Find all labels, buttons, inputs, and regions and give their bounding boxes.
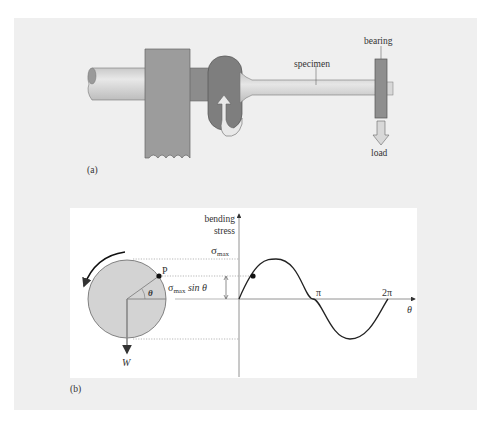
y-axis-label-bending: bending: [204, 214, 235, 224]
rotating-bending-diagram: specimen bearing load (a): [0, 0, 492, 422]
stress-dimension-arrow: [224, 276, 228, 299]
panel-a: specimen bearing load (a): [87, 36, 393, 176]
load-arrow-icon: [373, 121, 389, 145]
bearing: [375, 59, 387, 118]
panel-a-label: (a): [87, 165, 98, 176]
curve-point-p: [250, 273, 255, 278]
weight-label: W: [122, 357, 132, 368]
panel-b: bending stress σmax σmax sin θ P θ W π 2…: [70, 214, 415, 395]
y-axis-label-stress: stress: [214, 226, 235, 236]
sigma-max-label: σmax: [211, 244, 229, 258]
x-axis-label: θ: [407, 304, 412, 315]
drive-shaft: [88, 68, 150, 100]
angle-theta-label: θ: [148, 288, 153, 298]
point-p-label: P: [162, 265, 168, 276]
clamp-block: [145, 49, 190, 158]
specimen-label: specimen: [294, 59, 330, 69]
sigma-sin-theta-label: σmax sin θ: [168, 282, 207, 295]
tick-2pi-label: 2π: [382, 287, 392, 298]
load-label: load: [371, 148, 388, 158]
panel-b-label: (b): [70, 384, 81, 395]
point-p: [156, 273, 161, 278]
collar: [188, 68, 210, 101]
bearing-label: bearing: [364, 36, 393, 46]
specimen-rod: [240, 72, 380, 103]
tick-pi-label: π: [316, 287, 321, 298]
